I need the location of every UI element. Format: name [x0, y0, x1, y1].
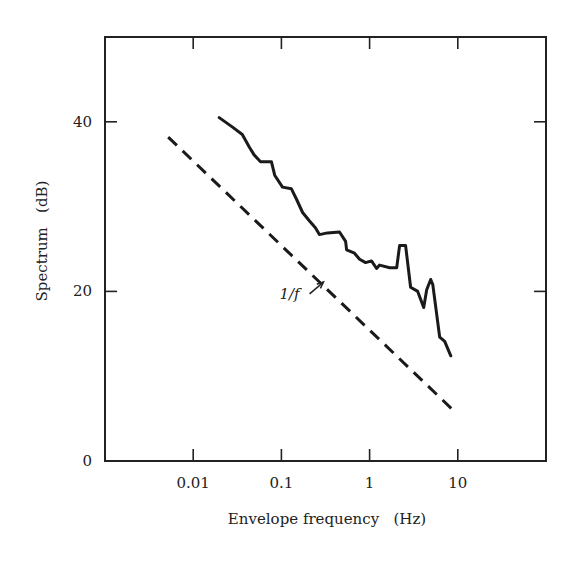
spectrum-line	[219, 118, 451, 356]
y-tick-label: 20	[73, 282, 92, 300]
plot-frame	[105, 37, 546, 461]
one-over-f-label: 1/f	[280, 285, 303, 303]
tick-labels: 0.010.111002040	[73, 113, 467, 492]
axis-ticks	[105, 37, 546, 461]
y-axis-label: Spectrum (dB)	[33, 181, 51, 302]
annotations: 1/f	[280, 282, 324, 303]
x-axis-label: Envelope frequency (Hz)	[228, 510, 426, 528]
data-series	[168, 118, 456, 413]
x-tick-label: 0.1	[269, 474, 293, 492]
x-tick-label: 1	[365, 474, 375, 492]
annotation-arrow	[310, 282, 324, 294]
y-tick-label: 40	[73, 113, 92, 131]
y-tick-label: 0	[82, 452, 92, 470]
x-tick-label: 10	[448, 474, 467, 492]
chart-figure: 0.010.111002040 1/f Envelope frequency (…	[0, 0, 573, 563]
one-over-f-dashed-line	[168, 137, 456, 413]
x-tick-label: 0.01	[176, 474, 209, 492]
